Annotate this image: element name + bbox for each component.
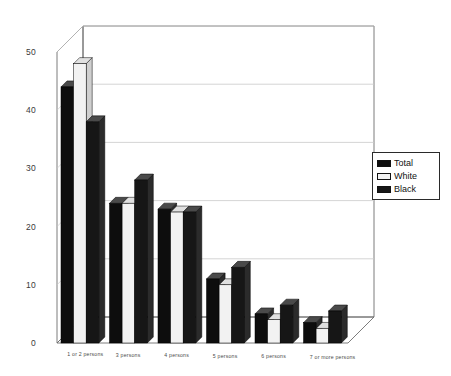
y-axis-tick-20: 20: [14, 222, 36, 232]
x-axis-tick-3: 5 persons: [213, 353, 238, 359]
x-axis-tick-2: 4 persons: [164, 352, 189, 358]
bar-black-cat1: [135, 174, 154, 343]
bar-black-cat2: [183, 206, 202, 343]
x-axis-tick-5: 7 or more persons: [310, 354, 356, 360]
x-axis-tick-0: 1 or 2 persons: [67, 351, 103, 357]
bar-black-cat4: [280, 299, 299, 343]
legend-swatch-total-icon: [377, 160, 391, 167]
legend-label-total: Total: [394, 158, 413, 168]
x-axis-tick-4: 6 persons: [261, 353, 286, 359]
legend-swatch-white-icon: [377, 173, 391, 180]
chart-plot-area: 50403020100 1 or 2 persons3 persons4 per…: [0, 0, 451, 376]
y-axis-tick-30: 30: [14, 163, 36, 173]
legend-item-total: Total: [377, 157, 435, 169]
legend-label-black: Black: [394, 184, 416, 194]
legend-label-white: White: [394, 171, 417, 181]
bar-black-cat0: [86, 116, 105, 343]
legend-item-black: Black: [377, 183, 435, 195]
y-axis-tick-50: 50: [14, 47, 36, 57]
y-axis-tick-0: 0: [14, 338, 36, 348]
y-axis-tick-40: 40: [14, 105, 36, 115]
chart-legend: Total White Black: [372, 152, 440, 200]
chart-screenshot: 50403020100 1 or 2 persons3 persons4 per…: [0, 0, 451, 376]
bar-black-cat3: [232, 261, 251, 343]
legend-swatch-black-icon: [377, 186, 391, 193]
x-axis-tick-1: 3 persons: [116, 351, 141, 357]
y-axis-tick-10: 10: [14, 280, 36, 290]
legend-item-white: White: [377, 170, 435, 182]
bar-black-cat5: [329, 305, 348, 343]
